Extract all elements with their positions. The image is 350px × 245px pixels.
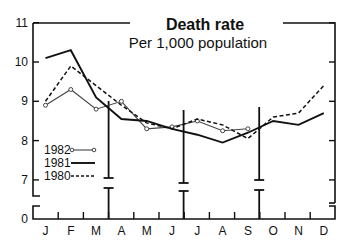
series-1982-marker — [94, 107, 98, 111]
x-tick-label: S — [244, 224, 252, 238]
series-1982-line — [46, 90, 248, 131]
death-rate-chart: Death rate Per 1,000 population 78910110… — [0, 0, 350, 245]
legend-label-1981: 1981 — [44, 156, 71, 170]
x-tick-label: O — [269, 224, 278, 238]
y-tick-label: 10 — [15, 55, 29, 69]
x-tick-label: J — [43, 224, 49, 238]
y-tick-label: 11 — [16, 16, 29, 30]
series-1981-line — [46, 50, 324, 142]
x-tick-label: A — [219, 224, 227, 238]
legend-label-1982: 1982 — [44, 143, 71, 157]
series-1982-marker — [246, 127, 250, 131]
y-tick-label: 9 — [21, 94, 28, 108]
x-tick-label: M — [91, 224, 101, 238]
legend-label-1980: 1980 — [44, 169, 71, 183]
x-axis: JFMAMJJASOND — [43, 212, 329, 238]
x-tick-label: J — [194, 224, 200, 238]
y-tick-label: 7 — [21, 173, 28, 187]
y-tick-label: 8 — [21, 134, 28, 148]
chart-titles: Death rate Per 1,000 population — [129, 16, 267, 51]
x-tick-label: F — [67, 224, 74, 238]
chart-title: Death rate — [166, 16, 244, 33]
x-tick-label: N — [294, 224, 303, 238]
x-tick-label: M — [142, 224, 152, 238]
x-tick-label: A — [117, 224, 125, 238]
series-1982-marker — [221, 129, 225, 133]
series-1982-marker — [44, 103, 48, 107]
series-1982-marker — [119, 99, 123, 103]
frame-top-right — [283, 23, 335, 203]
series-1982-marker — [145, 127, 149, 131]
x-tick-label: D — [319, 224, 328, 238]
x-tick-label: J — [169, 224, 175, 238]
chart-subtitle: Per 1,000 population — [129, 34, 267, 51]
legend-marker-1982 — [92, 148, 96, 152]
legend: 198219811980 — [44, 143, 96, 183]
y-tick-label: 0 — [21, 212, 28, 226]
series-1982-marker — [69, 88, 73, 92]
legend-marker-1982 — [70, 148, 74, 152]
y-axis-upper — [33, 23, 40, 196]
